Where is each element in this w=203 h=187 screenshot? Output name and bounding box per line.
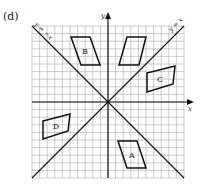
label-y-equals-minus-x: y = −x	[32, 20, 54, 42]
coordinate-grid-diagram: y = xy = −x xy BCDA	[0, 0, 203, 187]
shape-d-label: D	[53, 122, 59, 131]
y-axis-arrow-icon	[105, 12, 111, 19]
shape-a-label: A	[128, 151, 135, 160]
x-axis-label: x	[188, 105, 192, 113]
shape-b-label: B	[82, 47, 88, 56]
shape-c-label: C	[157, 75, 163, 84]
